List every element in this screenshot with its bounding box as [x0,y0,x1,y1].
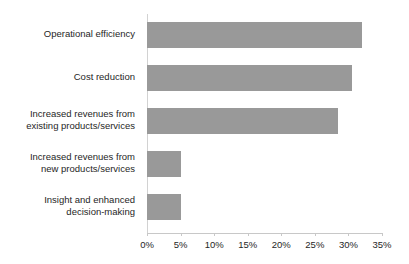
category-label: Cost reduction [0,71,141,83]
plot-area [147,14,382,233]
bar-row [147,151,382,177]
bar [147,108,338,134]
bar [147,22,362,48]
x-axis-tick-mark [348,233,349,236]
x-axis-tick-mark [181,233,182,236]
bar-row [147,108,382,134]
bar [147,151,181,177]
category-label: Increased revenues from existing product… [0,108,141,132]
x-axis-tick-mark [147,233,148,236]
x-axis-tick-label: 35% [362,239,402,251]
bar [147,65,352,91]
bar [147,194,181,220]
horizontal-bar-chart: Operational efficiency Cost reduction In… [0,0,409,264]
x-axis-tick-mark [214,233,215,236]
x-axis-tick-mark [382,233,383,236]
x-axis-tick-mark [281,233,282,236]
category-label: Operational efficiency [0,28,141,40]
x-axis-tick-mark [315,233,316,236]
category-label: Increased revenues from new products/ser… [0,151,141,175]
category-label: Insight and enhanced decision-making [0,194,141,218]
bar-row [147,65,382,91]
bar-row [147,194,382,220]
bar-row [147,22,382,48]
x-axis-tick-mark [248,233,249,236]
